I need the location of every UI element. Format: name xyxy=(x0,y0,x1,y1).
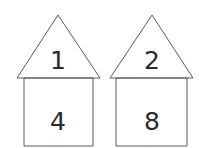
left-house-roof-number: 1 xyxy=(50,46,66,75)
left-house-group: 1 4 xyxy=(17,15,100,146)
left-house-body-number: 4 xyxy=(50,107,66,136)
right-house-group: 2 8 xyxy=(110,15,193,146)
house-shapes-figure: 1 4 2 8 xyxy=(0,0,199,148)
right-house-body-number: 8 xyxy=(144,107,160,136)
diagram-canvas: 1 4 2 8 xyxy=(0,0,199,148)
right-house-roof-number: 2 xyxy=(144,46,160,75)
